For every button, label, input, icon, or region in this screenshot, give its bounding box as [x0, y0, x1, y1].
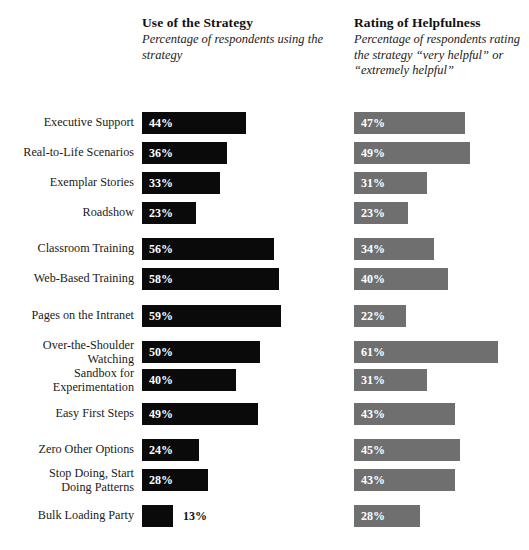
bar-value-label: 36% [142, 146, 173, 161]
column-title-rating: Rating of Helpfulness [354, 14, 529, 31]
row-label: Bulk Loading Party [0, 509, 134, 523]
bar-track-rating: 49% [354, 142, 529, 164]
bar-use: 23% [142, 202, 196, 224]
chart-row: Web-Based Training58%40% [0, 268, 529, 290]
bar-track-rating: 31% [354, 369, 529, 391]
chart-row: Zero Other Options24%45% [0, 439, 529, 461]
bar-track-rating: 22% [354, 305, 529, 327]
bar-rating: 47% [354, 112, 465, 134]
bar-rating: 28% [354, 505, 420, 527]
bar-track-use: 23% [142, 202, 337, 224]
bar-value-label: 24% [142, 443, 173, 458]
bar-value-label: 50% [142, 345, 173, 360]
bar-value-label: 58% [142, 272, 173, 287]
row-label: Classroom Training [0, 242, 134, 256]
bar-use: 40% [142, 369, 236, 391]
bar-use [142, 505, 173, 527]
chart-row: Roadshow23%23% [0, 202, 529, 224]
bar-track-use: 13% [142, 505, 337, 527]
chart-row: Easy First Steps49%43% [0, 403, 529, 425]
bar-value-label: 61% [354, 345, 385, 360]
chart-row: Pages on the Intranet59%22% [0, 305, 529, 327]
bar-value-label: 13% [183, 509, 207, 524]
row-label: Pages on the Intranet [0, 309, 134, 323]
bar-use: 49% [142, 403, 258, 425]
bar-value-label: 49% [354, 146, 385, 161]
bar-track-use: 28% [142, 469, 337, 491]
bar-track-rating: 47% [354, 112, 529, 134]
chart-row: Over-the-Shoulder Watching50%61% [0, 341, 529, 363]
bar-value-label: 22% [354, 309, 385, 324]
bar-rating: 22% [354, 305, 406, 327]
bar-rating: 43% [354, 469, 455, 491]
row-label: Web-Based Training [0, 272, 134, 286]
bar-value-label: 23% [142, 206, 173, 221]
grouped-bar-chart: Use of the Strategy Percentage of respon… [0, 0, 529, 550]
bar-track-rating: 61% [354, 341, 529, 363]
bar-track-use: 59% [142, 305, 337, 327]
bar-value-label: 34% [354, 242, 385, 257]
bar-use: 24% [142, 439, 199, 461]
bar-rating: 34% [354, 238, 434, 260]
bar-track-use: 40% [142, 369, 337, 391]
bar-use: 59% [142, 305, 281, 327]
bar-rating: 61% [354, 341, 498, 363]
bar-rating: 49% [354, 142, 470, 164]
bar-value-label: 31% [354, 176, 385, 191]
bar-track-rating: 43% [354, 403, 529, 425]
bar-track-use: 56% [142, 238, 337, 260]
bar-rating: 45% [354, 439, 460, 461]
bar-use: 44% [142, 112, 246, 134]
bar-value-label: 33% [142, 176, 173, 191]
row-label: Sandbox for Experimentation [0, 367, 134, 394]
bar-track-rating: 45% [354, 439, 529, 461]
bar-value-label: 44% [142, 116, 173, 131]
bar-use: 36% [142, 142, 227, 164]
column-title-use: Use of the Strategy [142, 14, 337, 31]
bar-rating: 31% [354, 172, 427, 194]
bar-rating: 43% [354, 403, 455, 425]
chart-row: Sandbox for Experimentation40%31% [0, 369, 529, 391]
row-label: Zero Other Options [0, 443, 134, 457]
bar-use: 33% [142, 172, 220, 194]
bar-value-label: 56% [142, 242, 173, 257]
row-label: Over-the-Shoulder Watching [0, 339, 134, 366]
row-label: Stop Doing, Start Doing Patterns [0, 467, 134, 494]
bar-value-label: 43% [354, 473, 385, 488]
bar-rating: 31% [354, 369, 427, 391]
bar-track-rating: 34% [354, 238, 529, 260]
bar-track-use: 44% [142, 112, 337, 134]
bar-track-rating: 40% [354, 268, 529, 290]
column-subtitle-rating: Percentage of respondents rating the str… [354, 32, 529, 79]
row-label: Executive Support [0, 116, 134, 130]
chart-row: Bulk Loading Party13%28% [0, 505, 529, 527]
column-subtitle-use: Percentage of respondents using the stra… [142, 32, 337, 63]
bar-use: 56% [142, 238, 274, 260]
bar-value-label: 23% [354, 206, 385, 221]
chart-row: Exemplar Stories33%31% [0, 172, 529, 194]
bar-track-use: 24% [142, 439, 337, 461]
row-label: Roadshow [0, 206, 134, 220]
bar-use: 58% [142, 268, 279, 290]
bar-value-label: 43% [354, 407, 385, 422]
bar-value-label: 45% [354, 443, 385, 458]
bar-value-label: 28% [142, 473, 173, 488]
column-header-rating: Rating of Helpfulness Percentage of resp… [354, 14, 529, 79]
bar-track-rating: 28% [354, 505, 529, 527]
bar-value-label: 40% [354, 272, 385, 287]
bar-value-label: 40% [142, 373, 173, 388]
bar-rating: 23% [354, 202, 408, 224]
bar-value-label: 31% [354, 373, 385, 388]
bar-track-rating: 23% [354, 202, 529, 224]
bar-track-use: 49% [142, 403, 337, 425]
bar-value-label: 49% [142, 407, 173, 422]
bar-rating: 40% [354, 268, 448, 290]
bar-value-label: 59% [142, 309, 173, 324]
bar-track-use: 33% [142, 172, 337, 194]
chart-headers: Use of the Strategy Percentage of respon… [0, 0, 529, 108]
bar-track-use: 36% [142, 142, 337, 164]
bar-value-label: 47% [354, 116, 385, 131]
row-label: Easy First Steps [0, 407, 134, 421]
chart-row: Executive Support44%47% [0, 112, 529, 134]
bar-track-use: 58% [142, 268, 337, 290]
